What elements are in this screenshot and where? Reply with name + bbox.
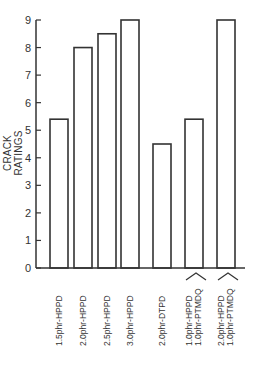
x-tick-label: 2.0phr-HPPD1.0phr-PTMDQ — [217, 288, 235, 346]
crack-ratings-bar-chart: 0123456789 CRACK RATINGS 1.5phr-HPPD2.0p… — [0, 0, 256, 375]
bar — [98, 34, 116, 268]
y-tick-label: 8 — [25, 42, 31, 54]
y-tick-label: 7 — [25, 69, 31, 81]
y-tick-label: 6 — [25, 97, 31, 109]
y-tick-label: 9 — [25, 14, 31, 26]
y-axis-label: CRACK RATINGS — [2, 118, 24, 188]
bar — [217, 20, 235, 268]
x-tick-label-line: 2.0phr-DTPD — [158, 296, 167, 346]
x-tick-label: 1.5phr-HPPD — [55, 295, 64, 346]
y-tick-label: 2 — [25, 207, 31, 219]
bar — [74, 48, 92, 268]
x-tick-label-line: 3.0phr-HPPD — [126, 295, 135, 346]
label-bracket — [186, 273, 206, 280]
bar — [153, 144, 171, 268]
x-tick-label: 2.0phr-HPPD — [79, 295, 88, 346]
x-tick-label: 2.5phr-HPPD — [103, 295, 112, 346]
x-tick-label-line: 2.0phr-HPPD — [79, 295, 88, 346]
x-tick-label: 3.0phr-HPPD — [126, 295, 135, 346]
y-tick-label: 3 — [25, 179, 31, 191]
y-tick-label: 4 — [25, 152, 31, 164]
y-tick-label: 5 — [25, 124, 31, 136]
bar — [121, 20, 139, 268]
y-tick-label: 1 — [25, 234, 31, 246]
x-tick-label-line: 1.0phr-PTMDQ — [226, 288, 235, 346]
x-tick-label: 1.0phr-HPPD1.0phr-PTMDQ — [185, 288, 203, 346]
bar — [185, 119, 203, 268]
y-tick-label: 0 — [25, 262, 31, 274]
x-tick-label-line: 1.5phr-HPPD — [55, 295, 64, 346]
x-tick-label-line: 1.0phr-PTMDQ — [194, 288, 203, 346]
bar — [50, 119, 68, 268]
x-tick-label: 2.0phr-DTPD — [158, 296, 167, 346]
label-bracket — [218, 273, 238, 280]
x-tick-label-line: 2.5phr-HPPD — [103, 295, 112, 346]
